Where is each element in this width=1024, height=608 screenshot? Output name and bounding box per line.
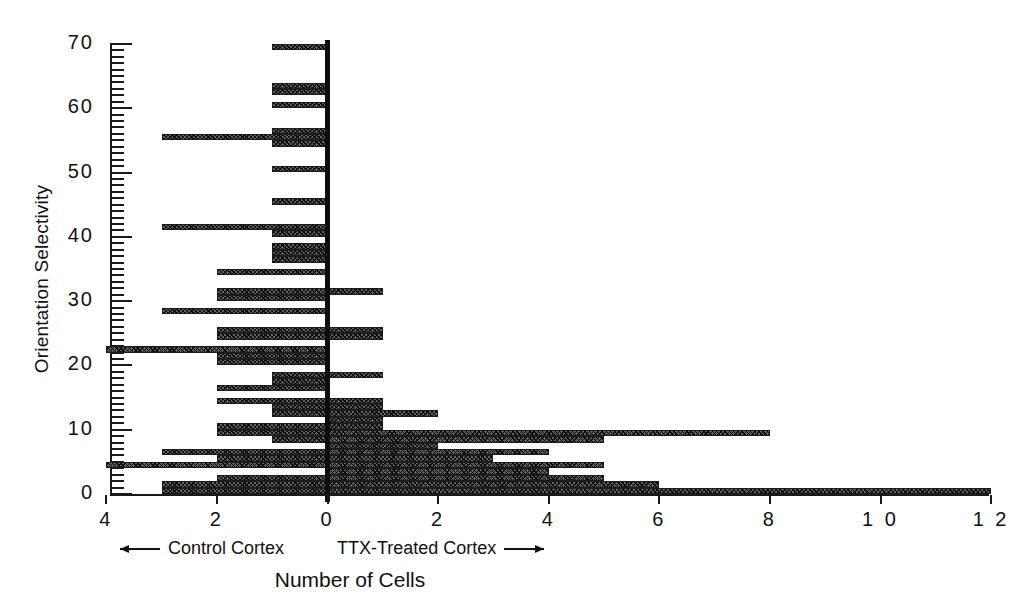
y-tick-48 <box>110 184 124 186</box>
y-tick-30 <box>110 300 132 302</box>
y-tick-label-70: 70 <box>48 31 94 54</box>
x-tick--2 <box>216 495 218 504</box>
y-tick-29 <box>110 307 124 309</box>
y-tick-68 <box>110 56 124 58</box>
bar <box>217 455 328 461</box>
bar <box>162 224 328 230</box>
bar <box>217 430 328 436</box>
bar <box>272 83 327 89</box>
y-tick-21 <box>110 358 124 360</box>
y-tick-67 <box>110 62 124 64</box>
bar <box>328 410 439 416</box>
bar <box>272 372 327 378</box>
y-tick-label-0: 0 <box>48 481 94 504</box>
bar <box>217 333 328 339</box>
bar <box>217 359 328 365</box>
x-tick-label-4: 4 <box>514 508 584 531</box>
y-tick-9 <box>110 435 124 437</box>
bar <box>328 404 383 410</box>
control-direction-group: Control Cortex <box>118 538 284 559</box>
y-tick-16 <box>110 390 124 392</box>
bar <box>272 378 327 384</box>
y-tick-54 <box>110 146 124 148</box>
bar <box>217 385 328 391</box>
bar <box>272 404 327 410</box>
y-tick-40 <box>110 236 132 238</box>
y-tick-42 <box>110 223 124 225</box>
y-tick-label-60: 60 <box>48 95 94 118</box>
y-tick-62 <box>110 94 124 96</box>
left-arrow-icon <box>118 543 162 555</box>
x-tick-label--2: 2 <box>182 508 252 531</box>
zero-axis-line <box>325 40 330 502</box>
y-tick-label-40: 40 <box>48 224 94 247</box>
y-tick-3 <box>110 474 124 476</box>
y-tick-13 <box>110 409 124 411</box>
bar <box>162 449 328 455</box>
bar <box>272 250 327 256</box>
x-tick-8 <box>769 495 771 504</box>
y-tick-26 <box>110 326 124 328</box>
y-tick-label-10: 10 <box>48 417 94 440</box>
bar <box>162 134 328 140</box>
y-tick-25 <box>110 332 124 334</box>
y-tick-33 <box>110 281 124 283</box>
y-tick-37 <box>110 255 124 257</box>
y-tick-18 <box>110 377 124 379</box>
y-tick-8 <box>110 442 124 444</box>
y-tick-label-30: 30 <box>48 288 94 311</box>
y-tick-61 <box>110 101 124 103</box>
y-tick-50 <box>110 172 132 174</box>
y-tick-label-20: 20 <box>48 352 94 375</box>
x-tick-label-8: 8 <box>735 508 805 531</box>
bar <box>272 166 327 172</box>
x-tick-0 <box>327 495 329 504</box>
x-tick-4 <box>548 495 550 504</box>
bar <box>217 423 328 429</box>
y-tick-12 <box>110 416 124 418</box>
y-tick-20 <box>110 364 132 366</box>
x-tick-12 <box>990 495 992 504</box>
y-tick-46 <box>110 197 124 199</box>
bar <box>328 423 383 429</box>
bar <box>328 475 605 481</box>
bar <box>217 475 328 481</box>
y-tick-39 <box>110 242 124 244</box>
bar <box>272 128 327 134</box>
bar <box>272 140 327 146</box>
y-tick-49 <box>110 178 124 180</box>
y-tick-66 <box>110 69 124 71</box>
y-tick-11 <box>110 422 124 424</box>
y-tick-60 <box>110 107 132 109</box>
right-arrow-icon <box>502 543 546 555</box>
bar <box>217 398 328 404</box>
y-tick-59 <box>110 114 124 116</box>
y-tick-47 <box>110 191 124 193</box>
x-tick-label-0: 0 <box>293 508 363 531</box>
bar <box>328 468 549 474</box>
y-tick-41 <box>110 229 124 231</box>
bar <box>217 269 328 275</box>
direction-legend: Control Cortex TTX-Treated Cortex <box>110 538 990 564</box>
y-tick-7 <box>110 448 124 450</box>
bar <box>272 436 327 442</box>
x-tick-label--4: 4 <box>71 508 141 531</box>
control-cortex-label: Control Cortex <box>168 538 284 559</box>
x-tick-label-10: 1 0 <box>846 508 916 531</box>
bar <box>272 410 327 416</box>
ttx-treated-cortex-label: TTX-Treated Cortex <box>337 538 496 559</box>
bar <box>217 327 328 333</box>
y-tick-52 <box>110 159 124 161</box>
y-tick-19 <box>110 371 124 373</box>
x-axis-title: Number of Cells <box>0 568 700 592</box>
bar <box>217 288 328 294</box>
bar <box>328 430 770 436</box>
y-tick-10 <box>110 429 132 431</box>
histogram-figure: Orientation Selectivity 706050403020100 … <box>0 0 1024 608</box>
x-tick-2 <box>437 495 439 504</box>
bar <box>272 243 327 249</box>
x-tick-label-12: 1 2 <box>956 508 1024 531</box>
bar <box>328 462 605 468</box>
bar <box>328 417 383 423</box>
bar <box>328 443 439 449</box>
